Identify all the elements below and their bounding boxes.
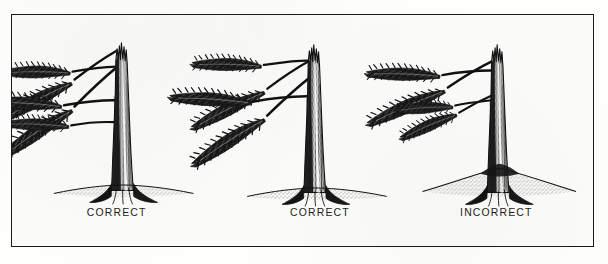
illustration-frame: CORRECT <box>11 14 594 247</box>
tree-2-ground <box>247 188 387 200</box>
tree-2-trunk <box>282 45 350 207</box>
tree-3-ground-mound <box>423 164 576 197</box>
tree-3-crown <box>355 37 501 145</box>
tree-2-crown <box>163 33 328 173</box>
tree-panel-2: CORRECT <box>163 33 387 218</box>
panel-3-label: INCORRECT <box>460 207 532 218</box>
panel-1-label: CORRECT <box>87 207 147 218</box>
illustration-root: CORRECT <box>0 0 608 264</box>
panel-2-label: CORRECT <box>290 207 350 218</box>
tree-panel-1: CORRECT <box>12 41 193 218</box>
tree-1-ground <box>54 185 194 197</box>
tree-illustration-canvas: CORRECT <box>12 15 593 246</box>
tree-panel-3: INCORRECT <box>355 37 576 219</box>
